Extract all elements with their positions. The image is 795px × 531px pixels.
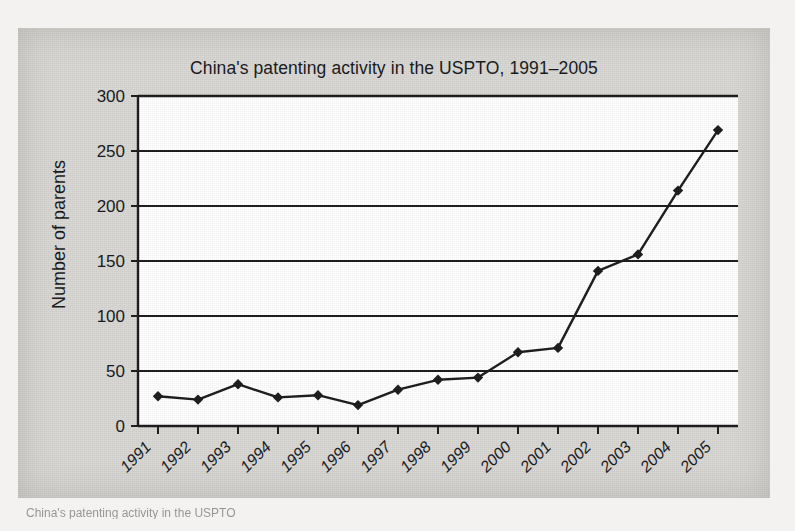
x-tick-label: 1995	[277, 438, 314, 475]
x-tick-label: 2003	[596, 438, 634, 476]
y-tick-label: 250	[97, 142, 125, 161]
x-tick-label: 2001	[516, 438, 554, 476]
x-tick-label: 2004	[636, 438, 674, 476]
x-tick-label: 1997	[357, 437, 395, 475]
x-tick-label: 1992	[157, 438, 194, 475]
x-tick-label: 1996	[317, 438, 354, 475]
x-tick-label: 2005	[676, 438, 714, 476]
x-tick-label: 1993	[197, 438, 234, 475]
x-tick-label: 2000	[476, 438, 514, 476]
y-tick-label: 0	[116, 417, 125, 436]
y-axis-ticks: 050100150200250300	[97, 87, 138, 436]
x-tick-label: 1991	[117, 438, 154, 475]
y-tick-label: 100	[97, 307, 125, 326]
y-tick-label: 300	[97, 87, 125, 106]
line-chart-plot: 050100150200250300 199119921993199419951…	[18, 28, 770, 498]
x-tick-label: 1999	[437, 438, 474, 475]
x-tick-label: 1994	[237, 438, 274, 475]
figure-caption-text: China's patenting activity in the USPTO	[26, 506, 236, 519]
scanned-page-panel: China's patenting activity in the USPTO,…	[18, 28, 770, 498]
x-tick-label: 1998	[397, 438, 434, 475]
y-tick-label: 200	[97, 197, 125, 216]
figure-caption: China's patenting activity in the USPTO	[26, 503, 456, 519]
x-axis-ticks: 1991199219931994199519961997199819992000…	[117, 426, 718, 476]
figure-root: China's patenting activity in the USPTO,…	[0, 0, 795, 531]
x-tick-label: 2002	[556, 438, 594, 476]
y-tick-label: 150	[97, 252, 125, 271]
y-tick-label: 50	[106, 362, 125, 381]
